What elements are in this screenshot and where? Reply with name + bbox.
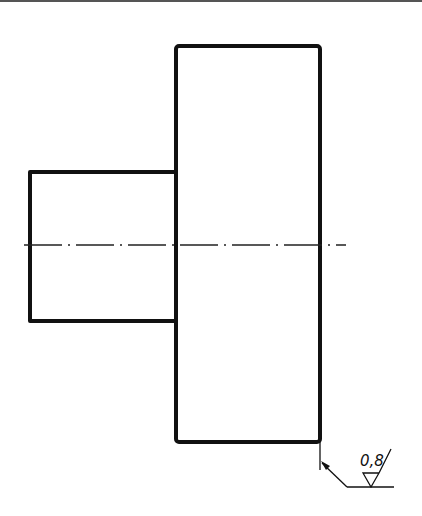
large-cylinder-outline: [176, 46, 320, 442]
technical-drawing: [0, 0, 422, 516]
small-shaft-outline: [30, 172, 176, 321]
roughness-value: 0,8: [360, 452, 384, 470]
